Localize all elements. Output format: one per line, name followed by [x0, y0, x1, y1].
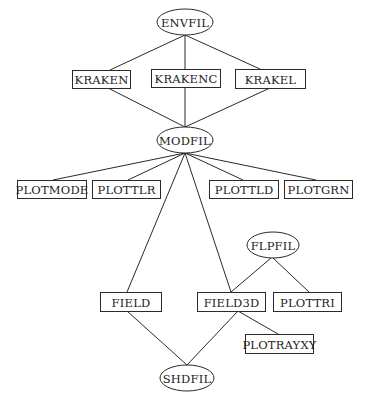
node-flpfil: FLPFIL — [247, 232, 299, 258]
node-plottlr: PLOTTLR — [93, 181, 161, 199]
edge-flpfil-to-plottri — [273, 258, 309, 292]
node-label: PLOTTRI — [280, 296, 335, 310]
edge-modfil-to-field — [127, 153, 185, 292]
flow-diagram: ENVFILKRAKENKRAKENCKRAKELMODFILPLOTMODEP… — [0, 0, 366, 407]
node-label: KRAKEN — [75, 73, 129, 87]
node-field: FIELD — [101, 293, 162, 312]
node-plottld: PLOTTLD — [210, 181, 279, 199]
node-label: FLPFIL — [251, 239, 296, 253]
edge-modfil-to-plottld — [185, 153, 243, 180]
node-shdfil: SHDFIL — [160, 365, 214, 391]
node-label: PLOTRAYXY — [242, 338, 316, 352]
node-label: PLOTTLR — [97, 183, 155, 197]
edge-modfil-to-field3d — [185, 153, 231, 292]
node-label: ENVFIL — [161, 16, 209, 30]
node-plotgrn: PLOTGRN — [285, 181, 353, 199]
node-modfil: MODFIL — [157, 127, 213, 153]
edge-modfil-to-plotgrn — [185, 153, 316, 180]
node-label: KRAKENC — [155, 72, 218, 86]
node-plottri: PLOTTRI — [274, 293, 342, 312]
edge-field3d-to-plotrayxy — [238, 311, 278, 334]
node-label: PLOTTLD — [215, 183, 274, 197]
edge-envfil-to-krakel — [185, 35, 260, 69]
node-label: PLOTGRN — [288, 183, 350, 197]
edge-flpfil-to-field3d — [231, 258, 271, 292]
edge-modfil-to-plottlr — [128, 153, 185, 180]
node-label: FIELD — [112, 296, 151, 310]
edge-field-to-shdfil — [127, 311, 187, 365]
node-label: PLOTMODE — [16, 183, 89, 197]
node-plotmode: PLOTMODE — [16, 181, 89, 199]
node-envfil: ENVFIL — [157, 9, 213, 35]
edge-field3d-to-shdfil — [187, 311, 238, 365]
node-label: FIELD3D — [204, 296, 260, 310]
node-krakel: KRAKEL — [236, 70, 306, 89]
diagram-nodes: ENVFILKRAKENKRAKENCKRAKELMODFILPLOTMODEP… — [16, 9, 353, 391]
node-krakenc: KRAKENC — [152, 70, 221, 88]
edge-krakel-to-modfil — [185, 88, 270, 127]
node-kraken: KRAKEN — [73, 71, 131, 89]
node-label: SHDFIL — [163, 372, 212, 386]
node-plotrayxy: PLOTRAYXY — [242, 335, 316, 354]
edge-kraken-to-modfil — [108, 88, 185, 127]
node-field3d: FIELD3D — [198, 293, 266, 312]
edge-modfil-to-plotmode — [53, 153, 185, 180]
node-label: MODFIL — [159, 134, 211, 148]
node-label: KRAKEL — [245, 73, 297, 87]
edge-envfil-to-kraken — [110, 35, 185, 70]
